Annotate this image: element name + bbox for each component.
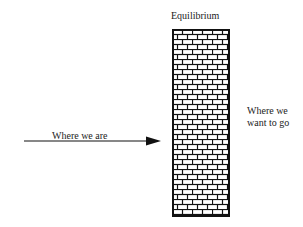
where-we-want-to-go-label: Where we want to go <box>247 105 289 129</box>
right-label-line-1: Where we <box>247 105 289 117</box>
equilibrium-title: Equilibrium <box>171 10 219 22</box>
right-label-line-2: want to go <box>247 117 289 129</box>
where-we-are-label: Where we are <box>52 130 108 142</box>
brick-wall-icon <box>172 29 230 217</box>
